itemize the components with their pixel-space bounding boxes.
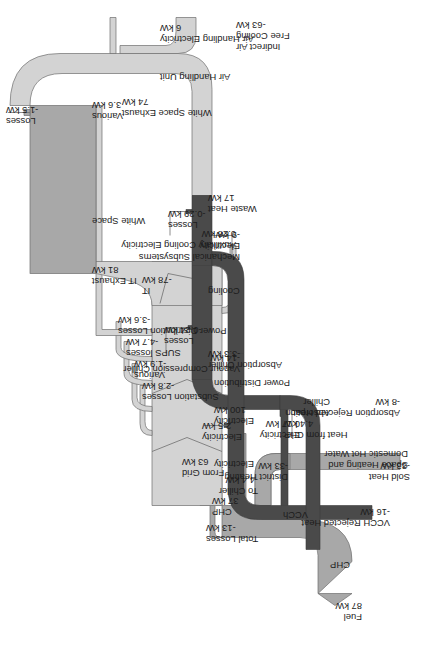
label-from-grid-value: 63 kW xyxy=(182,456,209,467)
label-indirect-free-cooling-line2: Free Cooling xyxy=(236,30,290,41)
flow-ahu-electricity xyxy=(110,17,116,53)
label-waste-heat-name: Waste Heat xyxy=(208,203,257,214)
label-vcch-rejected-heat-value: -16 kW xyxy=(360,506,390,517)
label-indirect-free-cooling-value: -63 kW xyxy=(236,19,266,30)
label-substation-losses-value: -2.8 kW xyxy=(142,380,174,391)
label-absorption-losses-name: Losses xyxy=(164,335,194,346)
label-mech-subsystems-line1: Mechanical Subsystems xyxy=(139,251,240,262)
label-white-space-exhaust-name: White Space Exhaust xyxy=(122,107,212,118)
label-fuel-value: 87 kW xyxy=(335,600,362,611)
label-absorption-rejected-heat-name: Absorption Rejected Heat xyxy=(293,407,400,418)
label-electricity-100-value: 100 kW xyxy=(214,404,246,415)
label-sups-losses-value: -4.7 kW xyxy=(126,336,158,347)
label-vcch-rejected-heat-name: VCCH Rejected Heat xyxy=(301,517,390,528)
label-absorption-chiller-node-line2: Chiller xyxy=(303,396,330,407)
label-total-losses-value: -13 kW xyxy=(206,522,236,533)
flow-white-space-band xyxy=(30,105,96,273)
label-substation-losses-name: Substation Losses xyxy=(142,391,219,402)
label-vapour-compression-chiller-name: Vapour Compression Chiller xyxy=(123,363,240,374)
label-aux-cooling-name: Auxilliary Cooling Electricity xyxy=(121,239,236,250)
label-sold-heat-name: Sold Heat xyxy=(368,471,410,482)
label-absorption-losses-value: -0.24 kW xyxy=(164,324,202,335)
diagram-rotation-wrapper: Fuel 87 kW Total Losses -13 kW CHP CHP 3… xyxy=(0,0,422,665)
label-chp-node: CHP xyxy=(330,559,350,570)
label-absorption-rejected-heat-value: -8 kW xyxy=(375,396,400,407)
label-white-space-exhaust-value: 74 kW xyxy=(122,96,149,107)
sankey-diagram-canvas: Fuel 87 kW Total Losses -13 kW CHP CHP 3… xyxy=(0,0,422,665)
label-various-pos-name: Various xyxy=(92,110,123,121)
label-absorption-electricity-value: 0.17 kW xyxy=(265,418,300,429)
sankey-svg: Fuel 87 kW Total Losses -13 kW CHP CHP 3… xyxy=(0,0,422,665)
label-indirect-free-cooling-line1: Indirect Air xyxy=(236,41,280,52)
label-power-distribution-node: Power Distribution xyxy=(214,377,290,388)
label-space-heating-node-line2: Domestic Hot Water xyxy=(324,448,408,459)
label-chp-electricity-name: CHP xyxy=(212,506,232,517)
label-it-exhaust-name: IT Exhaust xyxy=(92,275,137,286)
label-cooling-node: Cooling xyxy=(208,285,240,296)
label-electricity-trunk: Electricity xyxy=(214,458,254,469)
label-cooling-losses-name: Losses xyxy=(168,219,198,230)
label-absorption-electricity-name: Electricity xyxy=(260,429,300,440)
label-ahu-node: Air Handling Unit xyxy=(160,71,231,82)
label-to-chiller-name: To Chiller xyxy=(219,485,258,496)
label-waste-heat-value: 17 kW xyxy=(208,192,235,203)
label-vcch-electricity-name: Electricity xyxy=(202,431,242,442)
label-total-losses-name: Total Losses xyxy=(206,533,258,544)
label-district-heating-value: -33 kW xyxy=(258,460,288,471)
label-space-heating-node-line1: Space Heating and xyxy=(328,459,408,470)
label-white-space-node: White Space xyxy=(92,215,145,226)
label-it-value: -78 kW xyxy=(142,274,172,285)
label-aux-cooling-value: 0.28 kW xyxy=(201,228,236,239)
label-vapour-compression-chiller-value: -14 kW xyxy=(210,352,240,363)
label-it-exhaust-value: 81 kW xyxy=(92,264,119,275)
label-district-heating-name: District Heating xyxy=(224,471,288,482)
label-various-pos-value: 3.6 kW xyxy=(92,99,121,110)
label-sups-losses-name: SUPS losses xyxy=(126,347,181,358)
label-white-space-losses-name: Losses xyxy=(6,115,36,126)
label-fuel-name: Fuel xyxy=(344,611,362,622)
label-vcch-electricity-value: 2.5 kW xyxy=(202,420,231,431)
label-white-space-losses-value: -1.5 kW xyxy=(6,104,38,115)
label-cooling-losses-value: -0.29 kW xyxy=(168,208,206,219)
label-it-name: IT xyxy=(142,285,151,296)
label-power-distribution-losses-value: -3.6 kW xyxy=(118,314,150,325)
label-ahu-electricity-value: 6 kW xyxy=(160,22,182,33)
